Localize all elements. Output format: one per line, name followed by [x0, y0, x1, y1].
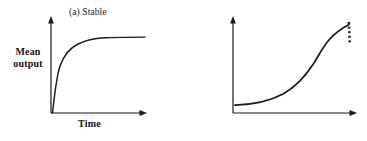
- panel-stable: (a) Stable Mean output Time: [0, 0, 183, 141]
- panel-title-stable: (a) Stable: [69, 7, 107, 17]
- unstable-curve: [235, 25, 349, 106]
- unstable-x-axis: [233, 110, 357, 116]
- y-axis-label-line1: Mean: [15, 46, 40, 57]
- unstable-plot-svg: [183, 0, 367, 141]
- panel-unstable: (b) Unstable Mean output Time: [183, 0, 367, 141]
- figure-root: (a) Stable Mean output Time: [0, 0, 367, 141]
- y-axis-label-line2: output: [13, 58, 43, 69]
- x-axis-label-stable: Time: [78, 118, 101, 130]
- stable-x-axis: [51, 110, 147, 116]
- y-axis-label-stable: Mean output: [5, 46, 51, 69]
- stable-curve: [53, 37, 146, 113]
- unstable-y-axis: [230, 16, 236, 113]
